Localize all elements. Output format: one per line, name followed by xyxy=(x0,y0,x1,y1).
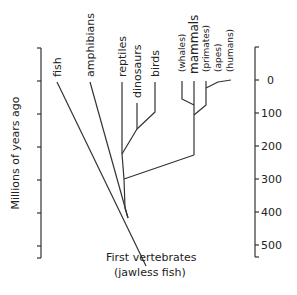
left-axis xyxy=(37,48,41,258)
tick-500: 500 xyxy=(261,239,282,252)
branch-whales xyxy=(182,81,194,105)
root-label-line1: First vertebrates xyxy=(106,251,197,264)
taxon-labels: fish amphibians reptiles dinosaurs birds… xyxy=(51,13,235,98)
label-primates: (primates) xyxy=(201,25,211,72)
root-label-line2: (jawless fish) xyxy=(114,266,186,279)
axis-label: Millions of years ago xyxy=(9,96,22,209)
tick-200: 200 xyxy=(261,140,282,153)
label-whales: (whales) xyxy=(177,34,187,72)
label-reptiles: reptiles xyxy=(116,36,129,77)
branch-primates xyxy=(194,81,206,115)
branch-mammal-stem xyxy=(124,155,194,179)
label-dinosaurs: dinosaurs xyxy=(131,44,144,98)
tick-400: 400 xyxy=(261,206,282,219)
label-mammals: mammals xyxy=(187,15,201,74)
branch-fish xyxy=(57,82,146,266)
tick-100: 100 xyxy=(261,107,282,120)
right-axis-tick-labels: 0 100 200 300 400 500 xyxy=(261,74,282,252)
label-amphibians: amphibians xyxy=(84,13,97,77)
right-axis xyxy=(255,47,259,257)
tick-300: 300 xyxy=(261,173,282,186)
label-birds: birds xyxy=(149,50,162,77)
label-apes: (apes) xyxy=(213,44,223,72)
branch-apes-humans xyxy=(206,80,231,88)
tick-0: 0 xyxy=(267,74,274,87)
root-label: First vertebrates (jawless fish) xyxy=(106,251,197,279)
evolution-tree-diagram: Millions of years ago 0 100 200 300 400 … xyxy=(0,0,297,295)
label-humans: (humans) xyxy=(225,29,235,72)
branch-dinosaurs xyxy=(122,103,137,154)
tree-branches xyxy=(57,80,231,266)
label-fish: fish xyxy=(51,57,64,77)
